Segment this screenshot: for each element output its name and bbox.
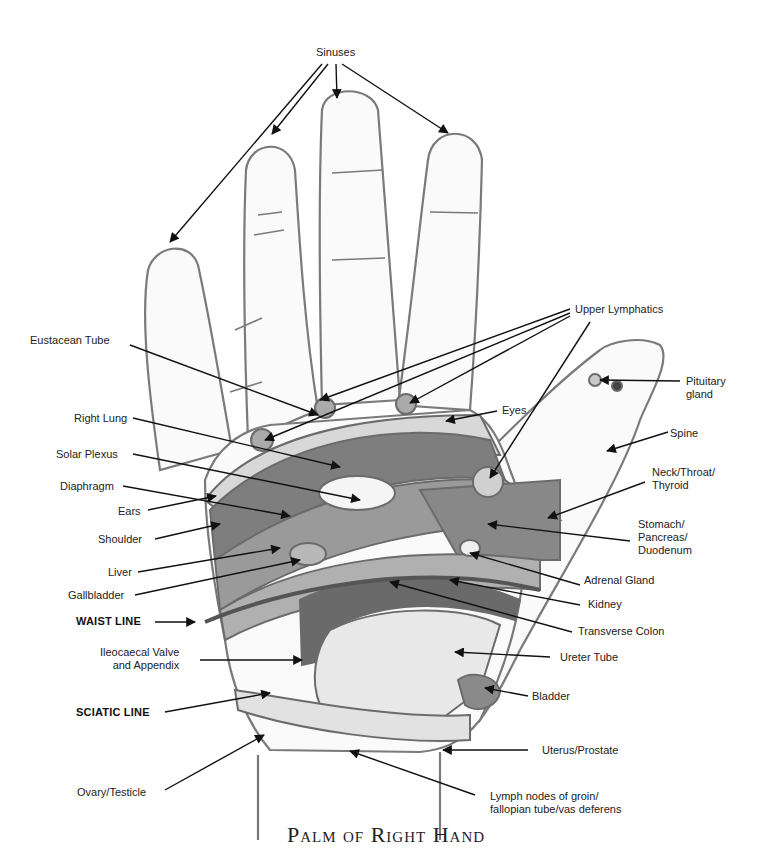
label-spine: Spine <box>670 427 698 440</box>
label-neck-throat-thyroid: Neck/Throat/ Thyroid <box>652 466 715 492</box>
label-eustacean-tube: Eustacean Tube <box>30 334 110 347</box>
label-ileocaecal-valve: Ileocaecal Valve and Appendix <box>100 646 179 672</box>
label-ovary-testicle: Ovary/Testicle <box>77 786 146 799</box>
hand-illustration <box>0 0 772 868</box>
label-adrenal-gland: Adrenal Gland <box>584 574 654 587</box>
label-sciatic-line: SCIATIC LINE <box>76 706 150 719</box>
label-lymph-nodes: Lymph nodes of groin/ fallopian tube/vas… <box>490 790 621 816</box>
label-stomach-pancreas-duodenum: Stomach/ Pancreas/ Duodenum <box>638 518 692 557</box>
label-diaphragm: Diaphragm <box>60 480 114 493</box>
label-upper-lymphatics: Upper Lymphatics <box>575 303 663 316</box>
label-waist-line: WAIST LINE <box>76 615 141 628</box>
label-gallbladder: Gallbladder <box>68 589 124 602</box>
label-uterus-prostate: Uterus/Prostate <box>542 744 618 757</box>
label-bladder: Bladder <box>532 690 570 703</box>
label-transverse-colon: Transverse Colon <box>578 625 664 638</box>
label-sinuses: Sinuses <box>316 46 355 59</box>
label-right-lung: Right Lung <box>74 412 127 425</box>
label-solar-plexus: Solar Plexus <box>56 448 118 461</box>
label-ears: Ears <box>118 505 141 518</box>
label-ureter-tube: Ureter Tube <box>560 651 618 664</box>
label-pituitary-gland: Pituitary gland <box>686 375 726 401</box>
label-eyes: Eyes <box>502 404 526 417</box>
diagram-title: Palm of Right Hand <box>0 822 772 848</box>
label-shoulder: Shoulder <box>98 533 142 546</box>
label-liver: Liver <box>108 566 132 579</box>
label-kidney: Kidney <box>588 598 622 611</box>
reflexology-diagram: Sinuses Upper Lymphatics Eustacean Tube … <box>0 0 772 868</box>
